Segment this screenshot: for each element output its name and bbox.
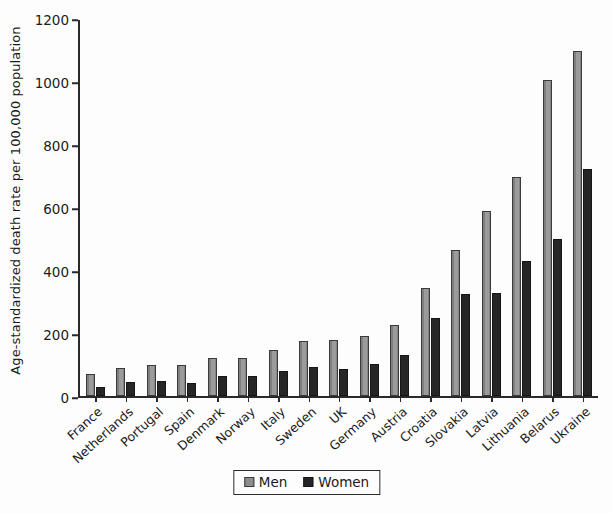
bar-women [583, 169, 592, 396]
bar-women [522, 261, 531, 396]
bar-group [293, 20, 323, 396]
chart-legend: MenWomen [233, 470, 380, 495]
bar-women [400, 355, 409, 396]
bar-men [512, 177, 521, 396]
bar-men [116, 368, 125, 396]
bar-group [80, 20, 110, 396]
bar-men [482, 211, 491, 396]
bar-group [141, 20, 171, 396]
legend-label: Men [259, 474, 288, 490]
bar-group [324, 20, 354, 396]
chart-page: Age-standardized death rate per 100,000 … [0, 0, 613, 513]
y-axis-tick-mark [72, 208, 78, 210]
bar-women [157, 381, 166, 396]
bar-women [431, 318, 440, 396]
bar-men [238, 358, 247, 396]
bar-men [269, 350, 278, 396]
x-axis-label-cell: Ukraine [568, 402, 598, 472]
bar-women [309, 367, 318, 396]
bar-men [573, 51, 582, 396]
bar-women [248, 376, 257, 396]
bar-men [543, 80, 552, 396]
bar-group [507, 20, 537, 396]
bar-men [390, 325, 399, 396]
bar-group [537, 20, 567, 396]
y-axis-title: Age-standardized death rate per 100,000 … [2, 0, 28, 400]
plot-area: 020040060080010001200 [78, 20, 598, 398]
legend-swatch-icon [303, 477, 313, 487]
bar-group [263, 20, 293, 396]
bar-men [421, 288, 430, 396]
bar-group [476, 20, 506, 396]
y-axis-tick-mark [72, 82, 78, 84]
legend-label: Women [318, 474, 369, 490]
bar-men [360, 336, 369, 396]
bar-men [177, 365, 186, 396]
bar-group [202, 20, 232, 396]
y-axis-tick-mark [72, 145, 78, 147]
bar-women [126, 382, 135, 396]
bar-group [446, 20, 476, 396]
y-axis-tick-mark [72, 271, 78, 273]
x-axis-label-cell: Portugal [141, 402, 171, 472]
bar-group [232, 20, 262, 396]
bar-women [96, 387, 105, 396]
bar-women [370, 364, 379, 396]
y-axis-title-text: Age-standardized death rate per 100,000 … [8, 26, 23, 374]
bar-women [461, 294, 470, 396]
legend-swatch-icon [244, 477, 254, 487]
bar-group [110, 20, 140, 396]
x-axis-label-cell: Norway [232, 402, 262, 472]
y-axis-tick-mark [72, 19, 78, 21]
legend-item-men[interactable]: Men [244, 474, 288, 490]
bar-women [492, 293, 501, 396]
bar-group [354, 20, 384, 396]
bar-women [339, 369, 348, 396]
bar-group [415, 20, 445, 396]
bar-men [208, 358, 217, 396]
x-axis-labels: FranceNetherlandsPortugalSpainDenmarkNor… [80, 402, 598, 472]
bar-men [299, 341, 308, 396]
bar-women [553, 239, 562, 396]
bar-men [86, 374, 95, 396]
y-axis-tick-mark [72, 334, 78, 336]
bar-women [218, 376, 227, 396]
bar-men [329, 340, 338, 396]
bar-women [279, 371, 288, 396]
y-axis-tick-mark [72, 397, 78, 399]
bar-group [171, 20, 201, 396]
legend-item-women[interactable]: Women [303, 474, 369, 490]
bar-group [385, 20, 415, 396]
bar-men [147, 365, 156, 396]
x-axis-label-cell: Sweden [293, 402, 323, 472]
bar-women [187, 383, 196, 396]
bar-group [568, 20, 598, 396]
bar-groups [80, 20, 598, 396]
bar-men [451, 250, 460, 396]
